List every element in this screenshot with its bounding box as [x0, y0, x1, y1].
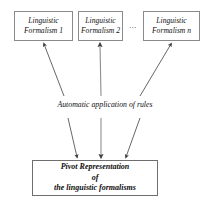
formalism-1-line1: Linguistic [28, 16, 58, 26]
arrow-up-to-formalism-n [140, 44, 171, 96]
ellipsis-separator: ... [125, 21, 141, 31]
pivot-line-1: Pivot Representation [61, 162, 130, 173]
linguistic-formalism-2-box: Linguistic Formalism 2 [78, 11, 123, 41]
formalism-n-line2: Formalism n [152, 26, 191, 36]
diagram-canvas: Linguistic Formalism 1 Linguistic Formal… [0, 0, 209, 204]
arrow-down-right [126, 118, 140, 157]
linguistic-formalism-1-box: Linguistic Formalism 1 [14, 11, 73, 41]
pivot-representation-box: Pivot Representation of the linguistic f… [32, 160, 158, 196]
formalism-1-line2: Formalism 1 [24, 26, 63, 36]
linguistic-formalism-n-box: Linguistic Formalism n [143, 11, 200, 41]
arrow-up-to-formalism-2 [100, 44, 101, 96]
pivot-line-2: of [92, 173, 99, 184]
automatic-application-of-rules-label: Automatic application of rules [26, 99, 184, 110]
arrow-up-to-formalism-1 [44, 44, 64, 96]
formalism-2-line1: Linguistic [85, 16, 115, 26]
formalism-n-line1: Linguistic [156, 16, 186, 26]
formalism-2-line2: Formalism 2 [81, 26, 120, 36]
pivot-line-3: the linguistic formalisms [54, 183, 136, 194]
arrow-down-left [68, 118, 77, 157]
